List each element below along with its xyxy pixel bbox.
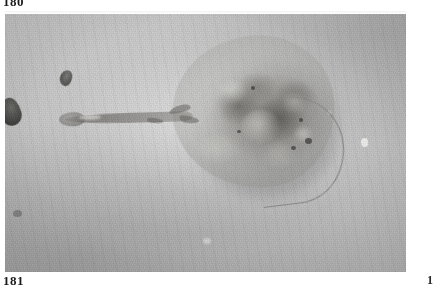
white-speck-lower-center	[203, 238, 211, 244]
seafloor-substrate	[5, 14, 406, 272]
white-speck-right	[361, 138, 368, 147]
white-speck-upper-right	[327, 110, 332, 115]
page-number-bottom: 181	[3, 274, 24, 287]
page-number-right-partial: 1	[427, 274, 433, 286]
pebble-lower-left	[13, 210, 22, 217]
ray-photograph	[5, 14, 406, 272]
page-number-top: 180	[3, 0, 24, 8]
scanned-page: 180	[0, 0, 433, 291]
